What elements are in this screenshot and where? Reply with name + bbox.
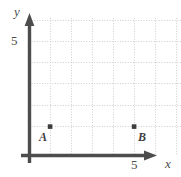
y-axis [25, 13, 35, 163]
y-axis-arrowhead [25, 13, 35, 26]
x-axis-label: x [165, 157, 171, 170]
x-axis-arrowhead [144, 151, 157, 161]
horizontal-gridlines [29, 21, 181, 127]
plot-canvas [0, 0, 181, 177]
y-axis-label: y [14, 5, 20, 18]
vertical-gridlines [51, 18, 177, 155]
point-label-b: B [138, 131, 146, 143]
point-marker-b [132, 124, 137, 129]
x-tick-label-5: 5 [131, 158, 138, 171]
coordinate-plane-figure: y x 5 5 A B [0, 0, 181, 177]
point-marker-a [48, 124, 53, 129]
point-label-a: A [39, 131, 47, 143]
y-tick-label-5: 5 [11, 34, 18, 47]
